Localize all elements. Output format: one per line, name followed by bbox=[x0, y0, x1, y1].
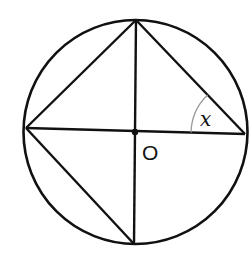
center-label: O bbox=[142, 141, 158, 164]
chord-top-left bbox=[26, 20, 136, 128]
center-point bbox=[132, 129, 138, 135]
circle-geometry-diagram: x O bbox=[0, 0, 250, 261]
chord-left-bottom bbox=[26, 128, 134, 244]
angle-label: x bbox=[200, 107, 211, 131]
chord-top-right bbox=[136, 20, 245, 134]
